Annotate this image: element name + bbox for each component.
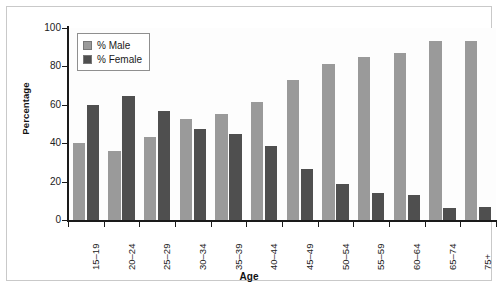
chart-frame: 100806040200 Percentage 15–1920–2425–293… (6, 6, 492, 281)
bar-female (194, 129, 207, 220)
y-tick-label: 80 (33, 60, 61, 71)
x-tick-label: 40–44 (268, 224, 279, 270)
x-tick-mark (318, 222, 319, 227)
bar-female (265, 146, 278, 220)
y-tick-mark (62, 28, 68, 29)
x-tick-label: 20–24 (126, 224, 137, 270)
x-tick-label: 55–59 (375, 224, 386, 270)
y-tick-mark (62, 66, 68, 67)
x-tick-mark (389, 222, 390, 227)
y-tick-label: 100 (33, 22, 61, 33)
bar-male (180, 119, 193, 220)
y-tick-mark (62, 220, 68, 221)
chart-legend: % Male% Female (77, 33, 150, 71)
x-tick-mark (425, 222, 426, 227)
x-tick-mark (246, 222, 247, 227)
x-tick-mark (353, 222, 354, 227)
x-tick-label: 45–49 (304, 224, 315, 270)
x-tick-mark (175, 222, 176, 227)
bar-female (372, 193, 385, 220)
x-tick-labels: 15–1920–2425–2930–3435–3940–4445–4950–54… (68, 228, 496, 274)
bar-female (408, 195, 421, 220)
x-tick-mark (68, 222, 69, 227)
bar-female (336, 184, 349, 220)
bar-female (158, 111, 171, 220)
bar-male (144, 137, 157, 220)
chart-figure: 100806040200 Percentage 15–1920–2425–293… (0, 0, 501, 290)
legend-item[interactable]: % Male (83, 38, 142, 52)
bar-male (73, 143, 86, 220)
x-tick-label: 60–64 (411, 224, 422, 270)
bar-male (394, 53, 407, 220)
x-tick-mark (282, 222, 283, 227)
x-tick-label: 65–74 (447, 224, 458, 270)
x-axis-title: Age (7, 271, 491, 282)
x-tick-label: 30–34 (197, 224, 208, 270)
y-tick-label: 20 (33, 176, 61, 187)
bar-female (122, 96, 135, 220)
x-tick-mark (496, 222, 497, 227)
legend-label: % Female (97, 54, 142, 65)
bar-male (287, 80, 300, 220)
y-tick-mark (62, 182, 68, 183)
bar-female (479, 207, 492, 220)
y-tick-label: 60 (33, 99, 61, 110)
legend-label: % Male (97, 40, 130, 51)
y-tick-mark (62, 105, 68, 106)
y-tick-label: 40 (33, 137, 61, 148)
x-tick-label: 15–19 (90, 224, 101, 270)
bar-female (301, 169, 314, 220)
x-tick-label: 35–39 (233, 224, 244, 270)
bar-male (465, 41, 478, 220)
y-tick-label: 0 (33, 214, 61, 225)
bar-female (443, 208, 456, 220)
bar-male (358, 57, 371, 220)
bar-male (251, 102, 264, 220)
x-tick-label: 75+ (482, 224, 493, 270)
bar-female (229, 134, 242, 220)
legend-swatch-icon (83, 55, 92, 64)
y-tick-mark (62, 143, 68, 144)
bar-male (108, 151, 121, 220)
y-axis-title: Percentage (20, 69, 31, 149)
x-tick-mark (460, 222, 461, 227)
x-tick-mark (211, 222, 212, 227)
x-tick-label: 25–29 (161, 224, 172, 270)
bar-male (215, 114, 228, 220)
bar-female (87, 105, 100, 220)
x-tick-mark (104, 222, 105, 227)
clipped-caption-remnant (6, 0, 386, 2)
x-tick-mark (139, 222, 140, 227)
x-tick-label: 50–54 (340, 224, 351, 270)
legend-swatch-icon (83, 41, 92, 50)
bar-male (429, 41, 442, 220)
y-tick-labels: 100806040200 (29, 7, 61, 290)
bar-male (322, 64, 335, 220)
y-axis-line (67, 26, 69, 222)
legend-item[interactable]: % Female (83, 52, 142, 66)
